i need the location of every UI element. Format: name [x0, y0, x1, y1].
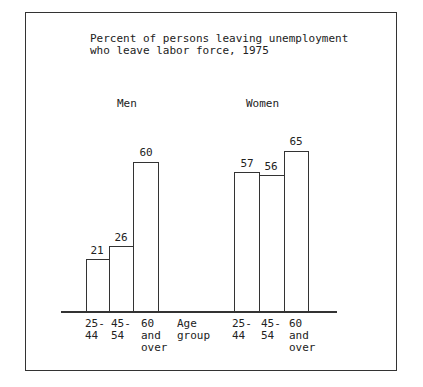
chart-frame — [25, 12, 397, 371]
value-label: 65 — [281, 135, 311, 148]
group-label-women: Women — [246, 97, 279, 110]
chart-title: Percent of persons leaving unemploymentw… — [90, 33, 348, 57]
tick-label: 25- 44 — [232, 318, 252, 342]
x-axis-baseline — [61, 311, 337, 313]
tick-label: 45- 54 — [111, 318, 131, 342]
tick-label: 45- 54 — [261, 318, 281, 342]
value-label: 60 — [131, 146, 161, 159]
bar-men-25-44 — [86, 259, 110, 312]
value-label: 56 — [256, 160, 286, 173]
value-label: 21 — [82, 244, 112, 257]
value-label: 26 — [106, 231, 136, 244]
tick-label: 60 and over — [289, 318, 316, 354]
group-label-men: Men — [117, 97, 137, 110]
bar-women-25-44 — [234, 172, 260, 312]
bar-men-60-over — [133, 162, 159, 312]
bar-men-45-54 — [109, 246, 134, 312]
axis-label: Age group — [177, 318, 210, 342]
bar-women-45-54 — [259, 175, 285, 312]
tick-label: 60 and over — [141, 318, 168, 354]
bar-women-60-over — [284, 151, 309, 312]
tick-label: 25- 44 — [85, 318, 105, 342]
